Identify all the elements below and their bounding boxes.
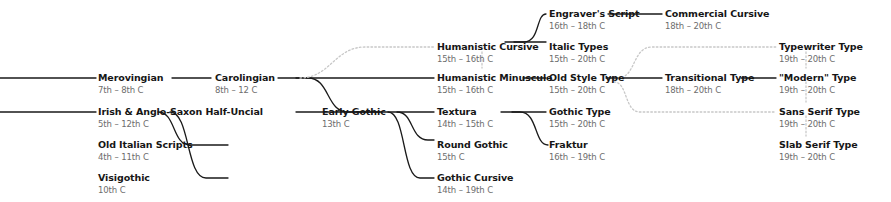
node-date-merovingian: 7th – 8th C bbox=[98, 85, 163, 95]
node-name-commercial-cursive: Commercial Cursive bbox=[665, 9, 769, 19]
node-name-fraktur: Fraktur bbox=[549, 140, 605, 150]
node-slab-serif-type: Slab Serif Type19th – 20th C bbox=[779, 140, 858, 162]
node-merovingian: Merovingian7th – 8th C bbox=[98, 73, 163, 95]
node-date-typewriter-type: 19th – 20th C bbox=[779, 54, 863, 64]
node-name-merovingian: Merovingian bbox=[98, 73, 163, 83]
node-sans-serif-type: Sans Serif Type19th – 20th C bbox=[779, 107, 860, 129]
node-fraktur: Fraktur16th – 19th C bbox=[549, 140, 605, 162]
node-name-typewriter-type: Typewriter Type bbox=[779, 42, 863, 52]
node-date-visigothic: 10th C bbox=[98, 185, 150, 195]
node-name-slab-serif-type: Slab Serif Type bbox=[779, 140, 858, 150]
node-early-gothic: Early Gothic13th C bbox=[322, 107, 386, 129]
node-name-carolingian: Carolingian bbox=[215, 73, 275, 83]
node-old-italian: Old Italian Scripts4th – 11th C bbox=[98, 140, 192, 162]
node-name-early-gothic: Early Gothic bbox=[322, 107, 386, 117]
node-date-old-style-type: 15th – 20th C bbox=[549, 85, 624, 95]
node-textura: Textura14th – 15th C bbox=[437, 107, 493, 129]
node-name-humanistic-cursive: Humanistic Cursive bbox=[437, 42, 539, 52]
node-date-humanistic-minuscule: 15th – 16th C bbox=[437, 85, 552, 95]
solid-edge-10 bbox=[505, 14, 546, 42]
node-name-sans-serif-type: Sans Serif Type bbox=[779, 107, 860, 117]
node-date-gothic-cursive: 14th – 19th C bbox=[437, 185, 513, 195]
node-name-modern-type: "Modern" Type bbox=[779, 73, 856, 83]
node-name-old-style-type: Old Style Type bbox=[549, 73, 624, 83]
node-date-transitional-type: 18th – 20th C bbox=[665, 85, 754, 95]
node-name-gothic-type: Gothic Type bbox=[549, 107, 611, 117]
node-engravers-script: Engraver's Script16th – 18th C bbox=[549, 9, 639, 31]
node-carolingian: Carolingian8th – 12 C bbox=[215, 73, 275, 95]
node-humanistic-minuscule: Humanistic Minuscule15th – 16th C bbox=[437, 73, 552, 95]
node-modern-type: "Modern" Type19th – 20th C bbox=[779, 73, 856, 95]
node-transitional-type: Transitional Type18th – 20th C bbox=[665, 73, 754, 95]
node-name-gothic-cursive: Gothic Cursive bbox=[437, 173, 513, 183]
node-date-fraktur: 16th – 19th C bbox=[549, 152, 605, 162]
node-name-irish: Irish & Anglo-Saxon Half-Uncial bbox=[98, 107, 263, 117]
solid-edge-9 bbox=[388, 112, 434, 178]
node-date-textura: 14th – 15th C bbox=[437, 119, 493, 129]
node-date-humanistic-cursive: 15th – 16th C bbox=[437, 54, 539, 64]
node-name-italic-types: Italic Types bbox=[549, 42, 608, 52]
node-name-old-italian: Old Italian Scripts bbox=[98, 140, 192, 150]
node-commercial-cursive: Commercial Cursive18th – 20th C bbox=[665, 9, 769, 31]
node-date-slab-serif-type: 19th – 20th C bbox=[779, 152, 858, 162]
node-date-modern-type: 19th – 20th C bbox=[779, 85, 856, 95]
node-irish: Irish & Anglo-Saxon Half-Uncial5th – 12t… bbox=[98, 107, 263, 129]
solid-edge-8 bbox=[397, 112, 434, 140]
node-italic-types: Italic Types15th – 20th C bbox=[549, 42, 608, 64]
solid-edge-13 bbox=[501, 112, 548, 145]
node-date-early-gothic: 13th C bbox=[322, 119, 386, 129]
node-gothic-type: Gothic Type15th – 20th C bbox=[549, 107, 611, 129]
node-round-gothic: Round Gothic15th C bbox=[437, 140, 508, 162]
node-name-humanistic-minuscule: Humanistic Minuscule bbox=[437, 73, 552, 83]
node-typewriter-type: Typewriter Type19th – 20th C bbox=[779, 42, 863, 64]
node-date-old-italian: 4th – 11th C bbox=[98, 152, 192, 162]
node-date-commercial-cursive: 18th – 20th C bbox=[665, 21, 769, 31]
node-name-engravers-script: Engraver's Script bbox=[549, 9, 639, 19]
node-date-sans-serif-type: 19th – 20th C bbox=[779, 119, 860, 129]
node-date-italic-types: 15th – 20th C bbox=[549, 54, 608, 64]
node-name-visigothic: Visigothic bbox=[98, 173, 150, 183]
node-visigothic: Visigothic10th C bbox=[98, 173, 150, 195]
typographic-family-tree-diagram: Merovingian7th – 8th CIrish & Anglo-Saxo… bbox=[0, 0, 891, 202]
node-old-style-type: Old Style Type15th – 20th C bbox=[549, 73, 624, 95]
node-date-carolingian: 8th – 12 C bbox=[215, 85, 275, 95]
dotted-edge-0 bbox=[300, 47, 434, 78]
node-humanistic-cursive: Humanistic Cursive15th – 16th C bbox=[437, 42, 539, 64]
node-date-gothic-type: 15th – 20th C bbox=[549, 119, 611, 129]
node-name-round-gothic: Round Gothic bbox=[437, 140, 508, 150]
node-gothic-cursive: Gothic Cursive14th – 19th C bbox=[437, 173, 513, 195]
node-date-round-gothic: 15th C bbox=[437, 152, 508, 162]
node-name-transitional-type: Transitional Type bbox=[665, 73, 754, 83]
node-name-textura: Textura bbox=[437, 107, 493, 117]
node-date-engravers-script: 16th – 18th C bbox=[549, 21, 639, 31]
node-date-irish: 5th – 12th C bbox=[98, 119, 263, 129]
